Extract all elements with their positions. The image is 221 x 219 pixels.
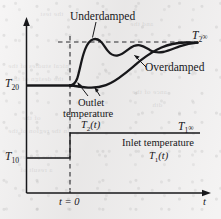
label-T1-infinity: T1∞ — [178, 120, 193, 135]
label-underdamped: Underdamped — [70, 10, 135, 22]
label-outlet-temperature-line2: temperature — [63, 108, 113, 119]
inlet-symbol-argument: (t) — [158, 150, 168, 161]
label-T2inf-infinity-glyph: ∞ — [202, 32, 207, 41]
label-outlet-temperature-symbol: T2(t) — [81, 119, 100, 132]
label-T10: T10 — [5, 150, 19, 165]
label-inlet-temperature-symbol: T1(t) — [149, 150, 168, 163]
figure-container: nical studies of thethe design of theanc… — [0, 0, 221, 219]
axes-group — [23, 17, 211, 196]
label-T1inf-infinity-glyph: ∞ — [188, 123, 193, 132]
label-T2-infinity: T2∞ — [192, 29, 207, 44]
label-x-axis-t: t — [203, 196, 206, 207]
label-T20-subscript: 20 — [11, 83, 19, 92]
label-overdamped: Overdamped — [145, 61, 204, 73]
label-inlet-temperature-text: Inlet temperature — [122, 137, 194, 148]
y-axis-arrowhead — [23, 17, 30, 26]
underdamped-leader-line — [93, 22, 97, 38]
annotation-leader-lines — [77, 22, 146, 96]
label-T10-subscript: 10 — [11, 156, 19, 165]
overdamped-leader-arrowhead — [134, 55, 140, 60]
outlet-symbol-argument: (t) — [90, 119, 100, 130]
label-T20: T20 — [5, 77, 19, 92]
label-t-equals-zero: t = 0 — [59, 196, 80, 207]
label-outlet-temperature-line1: Outlet — [78, 97, 104, 108]
